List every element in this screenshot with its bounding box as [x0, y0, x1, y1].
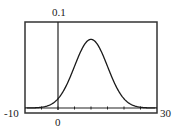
chart-canvas	[0, 0, 181, 132]
plot-frame	[25, 22, 157, 113]
xmin-label: -10	[4, 108, 19, 119]
xmax-label: 30	[160, 108, 171, 119]
x-origin-label: 0	[55, 117, 61, 128]
normal-curve-line	[25, 39, 157, 108]
ymax-label: 0.1	[52, 7, 66, 18]
